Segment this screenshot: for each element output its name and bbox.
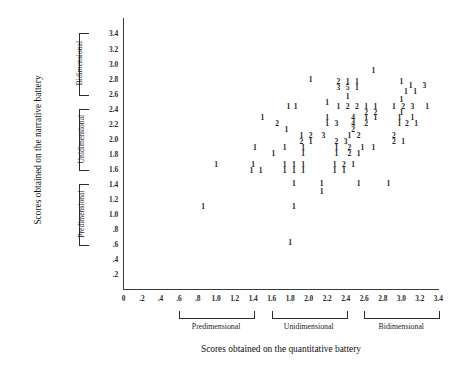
- data-point-count: 1: [294, 103, 298, 111]
- data-point-count: 3: [322, 132, 326, 140]
- data-point-count: 1: [288, 239, 292, 247]
- data-point-layer: 1113111211351111111221112312211141111213…: [0, 0, 464, 365]
- data-point-count: 2: [357, 132, 361, 140]
- data-point-count: 1: [260, 114, 264, 122]
- data-point-count: 1: [286, 103, 290, 111]
- data-point-count: 1: [348, 132, 352, 140]
- data-point-count: 1: [346, 94, 350, 102]
- data-point-count: 1: [342, 167, 346, 175]
- data-point-count: 1: [372, 67, 376, 75]
- data-point-count: 1: [201, 203, 205, 211]
- data-point-count: 2: [346, 103, 350, 111]
- data-point-count: 1: [425, 103, 429, 111]
- data-point-count: 1: [336, 103, 340, 111]
- data-point-count: 1: [283, 144, 287, 152]
- data-point-count: 1: [372, 144, 376, 152]
- data-point-count: 2: [405, 120, 409, 128]
- data-point-count: 1: [249, 167, 253, 175]
- data-point-count: 3: [411, 103, 415, 111]
- data-point-count: 1: [333, 167, 337, 175]
- data-point-count: 1: [386, 180, 390, 188]
- data-point-count: 1: [414, 120, 418, 128]
- data-point-count: 1: [309, 76, 313, 84]
- data-point-count: 1: [292, 167, 296, 175]
- data-point-count: 2: [392, 138, 396, 146]
- data-point-count: 1: [253, 144, 257, 152]
- data-point-count: 2: [275, 120, 279, 128]
- data-point-count: 1: [409, 82, 413, 90]
- data-point-count: 1: [413, 88, 417, 96]
- data-point-count: 1: [285, 126, 289, 134]
- data-point-count: 1: [320, 188, 324, 196]
- data-point-count: 1: [357, 150, 361, 158]
- data-point-count: 1: [373, 114, 377, 122]
- y-axis-title: Scores obtained on the narrative battery: [33, 40, 43, 260]
- data-point-count: 1: [292, 203, 296, 211]
- data-point-count: 1: [309, 138, 313, 146]
- data-point-count: 1: [392, 103, 396, 111]
- data-point-count: 1: [214, 161, 218, 169]
- data-point-count: 1: [259, 167, 263, 175]
- data-point-count: 1: [357, 180, 361, 188]
- data-point-count: 2: [355, 103, 359, 111]
- data-point-count: 1: [398, 120, 402, 128]
- data-point-count: 1: [401, 138, 405, 146]
- data-point-count: 1: [272, 150, 276, 158]
- scatter-plot-figure: .2.4.6.81.01.21.41.61.82.02.22.42.62.83.…: [0, 0, 464, 365]
- data-point-count: 1: [292, 180, 296, 188]
- data-point-count: 1: [404, 88, 408, 96]
- data-point-count: 1: [399, 79, 403, 87]
- data-point-count: 2: [348, 150, 352, 158]
- data-point-count: 1: [301, 150, 305, 158]
- data-point-count: 2: [364, 120, 368, 128]
- data-point-count: 3: [335, 120, 339, 128]
- data-point-count: 1: [283, 167, 287, 175]
- data-point-count: 1: [325, 99, 329, 107]
- x-axis-title: Scores obtained on the quantitative batt…: [123, 344, 439, 354]
- data-point-count: 1: [351, 161, 355, 169]
- data-point-count: 3: [336, 84, 340, 92]
- data-point-count: 1: [335, 150, 339, 158]
- data-point-count: 1: [325, 120, 329, 128]
- data-point-count: 1: [301, 167, 305, 175]
- data-point-count: 5: [346, 84, 350, 92]
- data-point-count: 3: [423, 82, 427, 90]
- data-point-count: 1: [361, 144, 365, 152]
- data-point-count: 2: [351, 126, 355, 134]
- data-point-count: 1: [355, 84, 359, 92]
